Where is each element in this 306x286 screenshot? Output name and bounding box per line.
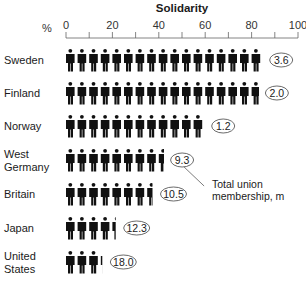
person-figure (170, 82, 179, 105)
person-figure (136, 115, 145, 138)
person-figure (240, 49, 249, 72)
person-figure (147, 149, 156, 172)
x-axis: 020406080100 (63, 19, 306, 38)
person-figure (136, 183, 145, 206)
person-figure (89, 49, 98, 72)
person-figure (101, 115, 110, 138)
person-figure (252, 49, 261, 72)
x-axis-unit-label: % (42, 22, 52, 34)
person-figure (66, 149, 75, 172)
membership-value: 9.3 (175, 154, 190, 166)
person-figure (66, 217, 75, 240)
person-figure (124, 149, 133, 172)
membership-value: 1.2 (216, 120, 231, 132)
person-figure (66, 183, 75, 206)
row-label-line: Germany (4, 161, 50, 173)
person-figure (101, 49, 110, 72)
membership-value: 18.0 (113, 256, 134, 268)
person-figure (182, 82, 191, 105)
row-label: Sweden (4, 54, 44, 66)
row-label: Japan (4, 222, 34, 234)
person-figure (147, 183, 156, 206)
person-figure (159, 115, 168, 138)
person-figure (136, 49, 145, 72)
person-figure (66, 115, 75, 138)
person-figure (66, 82, 75, 105)
person-figure (112, 149, 121, 172)
x-tick-label: 100 (289, 19, 306, 31)
person-figure (124, 82, 133, 105)
person-figure (159, 149, 168, 172)
person-figure (112, 115, 121, 138)
annotation-line: membership, m (212, 190, 285, 202)
person-figure (78, 115, 87, 138)
x-tick-label: 60 (199, 19, 211, 31)
person-figure (217, 49, 226, 72)
person-figure (124, 49, 133, 72)
chart-title: Solidarity (156, 2, 209, 14)
person-figure (101, 183, 110, 206)
person-figure (136, 82, 145, 105)
person-figure (182, 115, 191, 138)
row-label: UnitedStates (4, 250, 36, 275)
membership-oval: 3.6 (270, 53, 293, 67)
annotation: Total unionmembership, m (184, 167, 285, 202)
row-label-line: Finland (4, 87, 40, 99)
person-figure (78, 183, 87, 206)
person-figure (159, 49, 168, 72)
person-figure (147, 115, 156, 138)
row-label: Norway (4, 120, 42, 132)
person-figure (89, 115, 98, 138)
annotation-leader-line (184, 167, 204, 186)
chart-rows: Sweden3.6Finland2.0Norway1.2WestGermany9… (4, 49, 293, 275)
person-figure (66, 251, 75, 274)
person-figure (240, 82, 249, 105)
person-figure (78, 149, 87, 172)
person-figure (112, 217, 121, 240)
person-figure (101, 217, 110, 240)
x-tick-label: 80 (245, 19, 257, 31)
annotation-text: Total unionmembership, m (212, 178, 285, 202)
chart-row: WestGermany9.3 (4, 148, 194, 173)
person-figure (194, 82, 203, 105)
row-label-line: States (4, 263, 36, 275)
membership-value: 10.5 (163, 188, 184, 200)
person-figure (89, 82, 98, 105)
row-label-line: West (4, 148, 29, 160)
membership-value: 2.0 (270, 87, 285, 99)
person-figure (147, 49, 156, 72)
person-figure (228, 82, 237, 105)
chart-row: Sweden3.6 (4, 49, 293, 72)
person-figure (101, 82, 110, 105)
chart-row: Japan12.3 (4, 217, 150, 240)
person-figure (217, 82, 226, 105)
person-figure (112, 82, 121, 105)
person-figure (78, 49, 87, 72)
person-figure (89, 149, 98, 172)
person-figure (228, 49, 237, 72)
annotation-line: Total union (212, 178, 263, 190)
x-tick-label: 40 (153, 19, 165, 31)
row-label: WestGermany (4, 148, 50, 173)
person-figure (112, 183, 121, 206)
chart-row: Norway1.2 (4, 115, 235, 138)
row-label-line: Japan (4, 222, 34, 234)
person-figure (124, 183, 133, 206)
row-label: Britain (4, 188, 35, 200)
person-figure (89, 251, 98, 274)
person-figure (112, 49, 121, 72)
membership-oval: 9.3 (171, 153, 194, 167)
person-figure (205, 82, 214, 105)
membership-value: 12.3 (126, 222, 147, 234)
person-figure (66, 49, 75, 72)
row-label-line: Britain (4, 188, 35, 200)
person-figure (194, 49, 203, 72)
person-figure (205, 49, 214, 72)
membership-oval: 10.5 (161, 187, 187, 201)
person-figure (147, 82, 156, 105)
person-figure (101, 251, 110, 274)
x-tick-label: 0 (63, 19, 69, 31)
row-label-line: United (4, 250, 36, 262)
chart-row: UnitedStates18.0 (4, 250, 136, 275)
person-figure (124, 115, 133, 138)
